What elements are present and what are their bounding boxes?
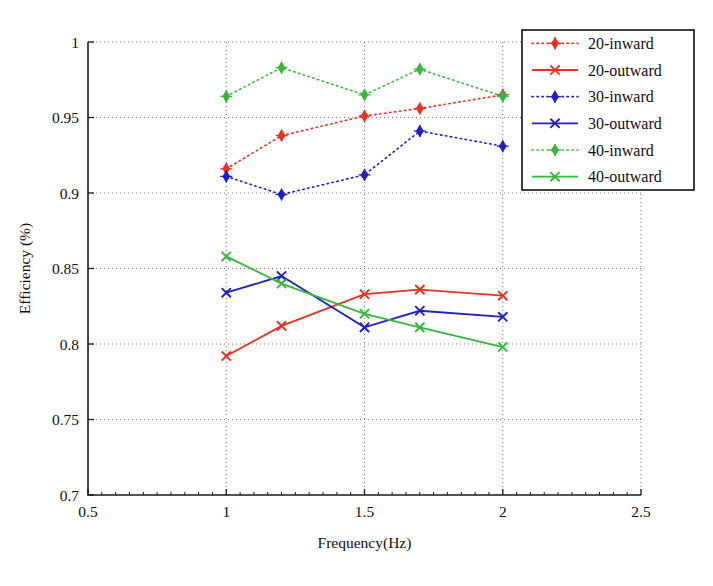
- y-tick-label: 0.95: [52, 109, 79, 126]
- y-tick-label: 0.7: [60, 487, 80, 504]
- x-tick-label: 1.5: [355, 503, 375, 520]
- marker-x: [277, 321, 286, 330]
- marker-x: [222, 351, 231, 360]
- legend-item-label: 20-outward: [588, 62, 662, 79]
- marker-diamond: [414, 125, 426, 137]
- marker-diamond: [414, 63, 426, 75]
- marker-diamond: [497, 140, 509, 152]
- marker-diamond: [276, 130, 288, 142]
- series-line: [226, 276, 503, 327]
- series-20-inward: [220, 89, 508, 175]
- y-tick-label: 0.9: [60, 185, 80, 202]
- legend-item-label: 20-inward: [588, 35, 654, 52]
- legend-item-label: 40-outward: [588, 168, 662, 185]
- marker-diamond: [220, 170, 232, 182]
- y-tick-label: 1: [71, 34, 79, 51]
- efficiency-vs-frequency-chart: 0.70.750.80.850.90.9510.511.522.5 Freque…: [0, 0, 713, 586]
- y-tick-label: 0.75: [52, 411, 79, 428]
- marker-x: [277, 279, 286, 288]
- legend-item-label: 30-inward: [588, 88, 654, 105]
- marker-diamond: [220, 90, 232, 102]
- y-tick-label: 0.8: [60, 336, 80, 353]
- y-tick-label: 0.85: [52, 260, 79, 277]
- marker-diamond: [359, 110, 371, 122]
- legend-item-label: 40-inward: [588, 142, 654, 159]
- x-tick-label: 0.5: [78, 503, 98, 520]
- x-tick-label: 2.5: [631, 503, 651, 520]
- marker-diamond: [414, 102, 426, 114]
- x-tick-label: 2: [499, 503, 507, 520]
- legend: 20-inward20-outward30-inward30-outward40…: [522, 30, 694, 190]
- y-axis-title: Efficiency (%): [16, 223, 34, 314]
- marker-diamond: [359, 169, 371, 181]
- marker-diamond: [359, 89, 371, 101]
- marker-x: [222, 252, 231, 261]
- x-axis-title: Frequency(Hz): [318, 534, 412, 552]
- marker-diamond: [276, 189, 288, 201]
- marker-diamond: [497, 90, 509, 102]
- legend-box: [522, 30, 694, 190]
- x-tick-label: 1: [222, 503, 230, 520]
- marker-diamond: [276, 62, 288, 74]
- legend-item-label: 30-outward: [588, 115, 662, 132]
- series-line: [226, 95, 503, 169]
- chart-figure: 0.70.750.80.850.90.9510.511.522.5 Freque…: [0, 0, 713, 586]
- marker-x: [222, 288, 231, 297]
